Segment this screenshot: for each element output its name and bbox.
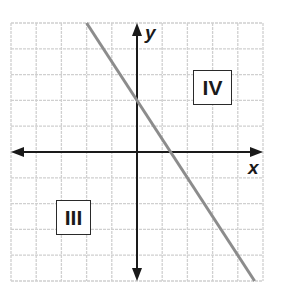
coordinate-plane (0, 0, 281, 291)
y-axis-down-arrow-icon (132, 268, 142, 281)
y-axis-label: y (145, 23, 156, 42)
y-axis-up-arrow-icon (132, 23, 142, 36)
x-axis-label: x (248, 158, 259, 177)
x-axis-right-arrow-icon (250, 147, 263, 157)
axes (11, 23, 263, 281)
quadrant-label-iii: III (56, 200, 91, 235)
x-axis-left-arrow-icon (11, 147, 24, 157)
quadrant-label-iv: IV (193, 70, 232, 105)
